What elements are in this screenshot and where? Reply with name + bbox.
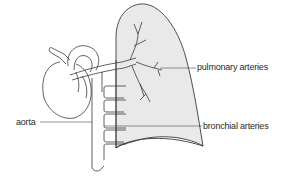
lung-circulation-diagram — [0, 0, 288, 178]
aorta-label: aorta — [16, 117, 36, 127]
bronchial-arteries-label: bronchial arteries — [203, 121, 268, 131]
pulmonary-arteries-label: pulmonary arteries — [197, 62, 268, 72]
lung — [116, 4, 203, 148]
heart — [43, 46, 99, 119]
